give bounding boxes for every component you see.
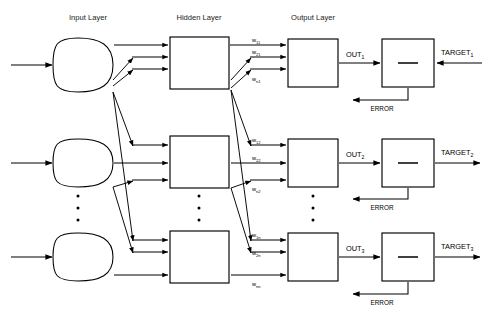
layer-title-output: Output Layer — [291, 13, 335, 22]
output-node-2 — [288, 139, 338, 187]
target-label-2: TARGET2 — [441, 148, 473, 158]
target-label-3: TARGET3 — [441, 242, 473, 252]
diagram-canvas: Input Layer Hidden Layer Output Layer w1… — [0, 0, 500, 316]
error-label-2: ERROR — [370, 204, 393, 211]
target-label-1: TARGET1 — [441, 48, 473, 58]
error-label-3: ERROR — [370, 299, 393, 306]
hidden-node-3 — [170, 231, 229, 283]
layer-title-hidden: Hidden Layer — [176, 13, 222, 22]
output-node-1 — [288, 39, 338, 87]
error-label-1: ERROR — [370, 105, 393, 112]
hidden-node-1 — [170, 37, 229, 89]
input-node-2 — [53, 139, 113, 187]
input-node-1 — [53, 38, 113, 92]
layer-title-input: Input Layer — [69, 13, 107, 22]
input-node-3 — [53, 233, 113, 281]
hidden-node-2 — [170, 136, 229, 188]
output-node-3 — [288, 233, 338, 281]
